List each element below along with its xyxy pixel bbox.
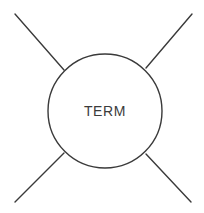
edge-bottom-right — [146, 154, 191, 202]
diagram-svg: TERM — [0, 0, 204, 213]
term-node-label: TERM — [84, 103, 126, 119]
edge-top-left — [15, 14, 64, 70]
diagram-canvas: TERM — [0, 0, 204, 213]
edge-top-right — [146, 14, 192, 68]
edge-bottom-left — [15, 153, 64, 202]
